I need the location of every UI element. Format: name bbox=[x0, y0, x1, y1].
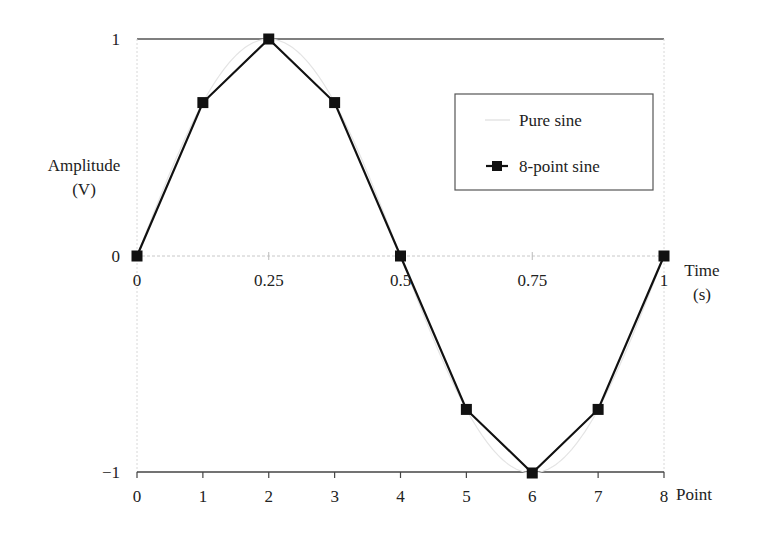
time-axis-label-line2: (s) bbox=[693, 285, 711, 304]
square-marker bbox=[263, 34, 274, 45]
point-axis-label: Point bbox=[676, 485, 712, 504]
time-tick-labels: 00.250.50.751 bbox=[133, 271, 669, 290]
ytick-neg1: −1 bbox=[102, 463, 120, 482]
time-tick-label: 0.5 bbox=[390, 271, 411, 290]
square-marker bbox=[593, 404, 604, 415]
square-marker bbox=[132, 251, 143, 262]
sine-sampling-chart: 1 0 −1 Amplitude (V) Time (s) Point 00.2… bbox=[0, 0, 765, 538]
point-tick-label: 7 bbox=[594, 487, 603, 506]
square-marker bbox=[461, 404, 472, 415]
y-axis-label-line2: (V) bbox=[72, 180, 96, 199]
point-tick-label: 3 bbox=[330, 487, 339, 506]
point-tick-label: 2 bbox=[265, 487, 274, 506]
square-marker bbox=[329, 97, 340, 108]
point-tick-label: 4 bbox=[396, 487, 405, 506]
y-axis-label-line1: Amplitude bbox=[48, 156, 121, 175]
square-marker bbox=[527, 468, 538, 479]
time-axis-label-line1: Time bbox=[684, 261, 719, 280]
square-marker-icon bbox=[492, 161, 502, 171]
legend: Pure sine 8-point sine bbox=[455, 94, 653, 190]
time-tick-label: 0.75 bbox=[517, 271, 547, 290]
point-tick-label: 5 bbox=[462, 487, 471, 506]
point-tick-label: 8 bbox=[660, 487, 669, 506]
square-marker bbox=[395, 251, 406, 262]
ytick-0: 0 bbox=[112, 247, 121, 266]
time-tick-label: 1 bbox=[660, 271, 669, 290]
time-tick-label: 0 bbox=[133, 271, 142, 290]
square-marker bbox=[197, 97, 208, 108]
time-tick-label: 0.25 bbox=[254, 271, 284, 290]
point-tick-labels: 012345678 bbox=[133, 487, 669, 506]
point-tick-label: 1 bbox=[199, 487, 208, 506]
point-tick-label: 0 bbox=[133, 487, 142, 506]
point-tick-label: 6 bbox=[528, 487, 537, 506]
square-marker bbox=[659, 251, 670, 262]
legend-label-pure-sine: Pure sine bbox=[519, 111, 582, 130]
ytick-1: 1 bbox=[112, 30, 121, 49]
legend-label-8-point-sine: 8-point sine bbox=[519, 157, 600, 176]
